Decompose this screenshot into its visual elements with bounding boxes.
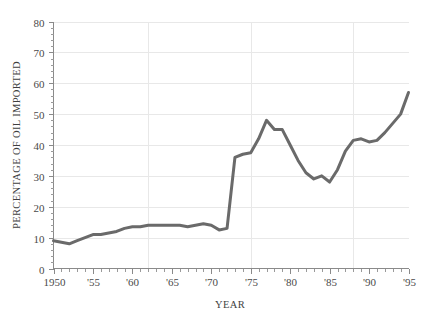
y-axis-tick-label: 50 [34, 109, 46, 121]
x-axis-tick-label: '75 [245, 276, 258, 288]
y-axis-tick-labels: 01020304050607080 [34, 17, 46, 276]
y-axis-tick-label: 20 [34, 202, 46, 214]
x-axis-tick-label: 1950 [44, 276, 67, 288]
x-axis-tick-label: '85 [324, 276, 337, 288]
oil-import-line-chart: 01020304050607080 1950'55'60'65'70'75'80… [0, 0, 430, 319]
x-axis-tick-label: '55 [87, 276, 100, 288]
x-axis-tick-label: '70 [205, 276, 218, 288]
y-axis-tick-label: 10 [34, 233, 46, 245]
y-axis-tick-label: 60 [34, 78, 46, 90]
y-axis-tick-label: 70 [34, 47, 46, 59]
y-axis-tick-label: 30 [34, 171, 46, 183]
chart-container: 01020304050607080 1950'55'60'65'70'75'80… [0, 0, 430, 319]
x-axis-tick-label: '65 [166, 276, 179, 288]
y-axis-title: PERCENTAGE OF OIL IMPORTED [11, 61, 22, 229]
x-axis-title: YEAR [215, 299, 245, 310]
x-axis-tick-label: '80 [284, 276, 297, 288]
x-axis-tick-label: '60 [126, 276, 139, 288]
x-axis-tick-label: '95 [403, 276, 416, 288]
y-axis-tick-label: 80 [34, 17, 46, 29]
y-axis-tick-label: 0 [39, 264, 45, 276]
chart-background [0, 0, 430, 319]
x-axis-tick-label: '90 [363, 276, 376, 288]
y-axis-tick-label: 40 [34, 140, 46, 152]
